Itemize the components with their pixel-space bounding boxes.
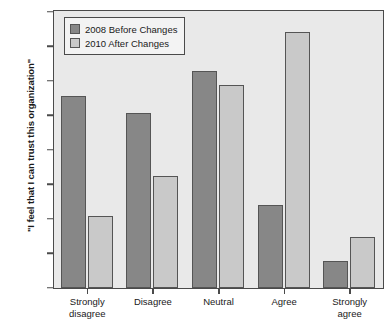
x-axis-tick-label: Strongly disagree <box>69 296 105 319</box>
bar-2008 <box>61 96 86 288</box>
legend-item-2010: 2010 After Changes <box>70 36 177 50</box>
x-axis-tick-mark <box>218 288 220 294</box>
legend-label-2008: 2008 Before Changes <box>85 24 177 35</box>
x-axis-tick-mark <box>284 288 286 294</box>
bar-group <box>316 12 382 288</box>
bar-2008 <box>126 113 151 288</box>
plot-area: 2008 Before Changes 2010 After Changes <box>53 10 384 289</box>
x-axis-tick-label: Agree <box>271 296 296 308</box>
y-axis-title: "I feel that I can trust this organizati… <box>25 12 36 280</box>
bar-group <box>251 12 317 288</box>
bar-group <box>185 12 251 288</box>
legend-swatch-2008 <box>70 24 80 34</box>
bar-2008 <box>258 205 283 288</box>
legend-item-2008: 2008 Before Changes <box>70 22 177 36</box>
bar-2010 <box>285 32 310 288</box>
x-axis-tick-mark <box>349 288 351 294</box>
bar-2008 <box>323 261 348 288</box>
x-axis-tick-mark <box>152 288 154 294</box>
bar-2008 <box>192 71 217 288</box>
x-axis-tick-label: Strongly agree <box>332 296 367 319</box>
x-axis-tick-mark <box>87 288 89 294</box>
bar-2010 <box>153 176 178 288</box>
bar-2010 <box>219 85 244 288</box>
bar-2010 <box>350 237 375 288</box>
x-axis-tick-label: Disagree <box>134 296 172 308</box>
bar-2010 <box>88 216 113 288</box>
chart-legend: 2008 Before Changes 2010 After Changes <box>64 17 185 55</box>
legend-swatch-2010 <box>70 38 80 48</box>
bar-chart-figure: "I feel that I can trust this organizati… <box>0 0 388 326</box>
legend-label-2010: 2010 After Changes <box>85 38 169 49</box>
x-axis-tick-label: Neutral <box>203 296 234 308</box>
